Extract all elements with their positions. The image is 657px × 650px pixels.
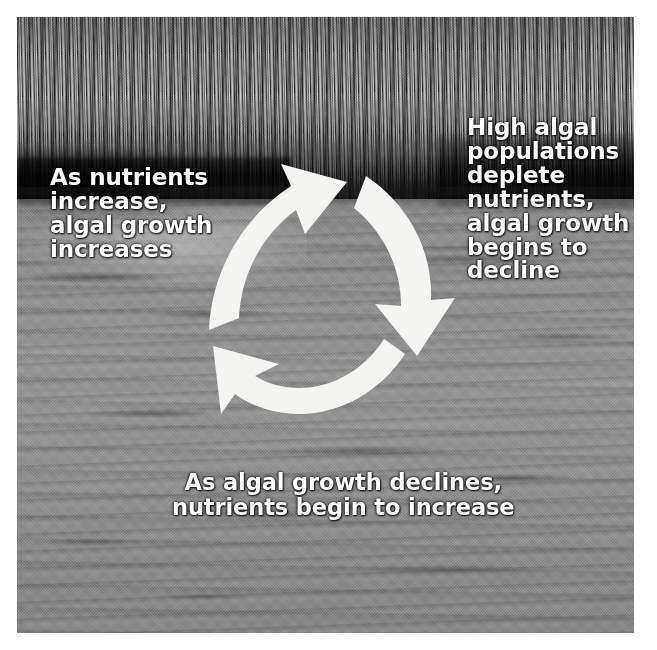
arrow-bottom-left-icon (213, 339, 405, 414)
arrow-right-icon (354, 176, 455, 356)
caption-high-algal-populations: High algal populations deplete nutrients… (467, 116, 629, 283)
arrow-top-left-icon (209, 164, 347, 330)
eutrophication-cycle-figure: As nutrients increase, algal growth incr… (0, 0, 657, 650)
caption-algal-growth-declines: As algal growth declines, nutrients begi… (172, 470, 515, 520)
caption-nutrients-increase: As nutrients increase, algal growth incr… (50, 166, 212, 262)
cycle-arrows-diagram (195, 158, 455, 426)
